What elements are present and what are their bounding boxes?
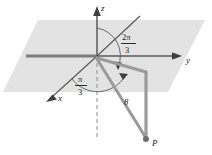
- spherical-coordinates-svg: y z x 2π 3 π 3 8 P: [0, 0, 212, 155]
- azimuth-denominator: 3: [125, 45, 129, 55]
- z-axis-arrowhead: [93, 6, 101, 16]
- figure-canvas: y z x 2π 3 π 3 8 P: [0, 0, 212, 155]
- point-p-marker: [143, 136, 149, 142]
- point-p-label: P: [151, 138, 158, 148]
- radius-label: 8: [124, 97, 129, 107]
- x-axis-arrowhead: [46, 95, 57, 103]
- z-axis-label: z: [100, 3, 105, 13]
- y-axis-label: y: [185, 55, 190, 65]
- polar-numerator: π: [78, 74, 83, 84]
- azimuth-numerator: 2π: [122, 32, 131, 42]
- x-axis-label: x: [57, 93, 62, 103]
- polar-denominator: 3: [78, 87, 82, 97]
